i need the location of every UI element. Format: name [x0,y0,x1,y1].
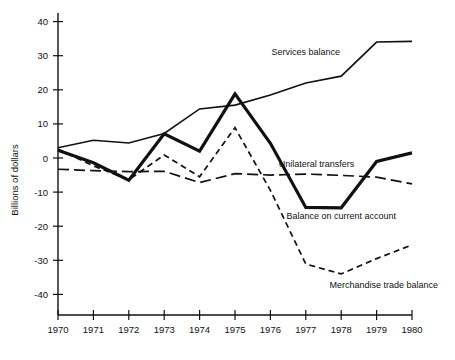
series-line-merchandise-trade-balance [58,128,412,274]
series-annotation-label: Unilateral transfers [279,159,355,169]
series-annotation-label: Balance on current account [286,211,396,221]
y-axis-title-group: Billions of dollars [9,144,20,216]
y-axis-tick-label: -10 [34,187,48,198]
x-axis-tick-label: 1978 [331,324,352,335]
y-axis-title: Billions of dollars [9,144,20,216]
x-axis-tick-label: 1980 [401,324,422,335]
series-annotation-label: Services balance [272,47,341,57]
y-axis-tick-label: -30 [34,255,48,266]
y-axis-tick-label: 10 [37,118,48,129]
y-axis-tick-label: -20 [34,221,48,232]
series-annotations: Services balanceUnilateral transfersBala… [272,47,438,290]
y-axis-tick-label: 0 [43,153,48,164]
series-lines [58,41,412,274]
y-axis-tick-label: 20 [37,84,48,95]
chart-container: Billions of dollars 403020100-10-20-30-4… [0,0,455,360]
x-axis: 1970197119721973197419751976197719781979… [47,310,422,335]
line-chart: Billions of dollars 403020100-10-20-30-4… [0,0,455,360]
y-axis-tick-label: 30 [37,50,48,61]
x-axis-tick-label: 1975 [224,324,245,335]
x-axis-tick-label: 1972 [118,324,139,335]
x-axis-tick-label: 1970 [47,324,68,335]
x-axis-tick-label: 1979 [366,324,387,335]
x-axis-tick-label: 1976 [260,324,281,335]
series-annotation-label: Merchandise trade balance [329,280,438,290]
y-axis-tick-label: 40 [37,16,48,27]
x-axis-tick-label: 1977 [295,324,316,335]
series-line-balance-on-current-account [58,94,412,208]
y-axis-tick-label: -40 [34,289,48,300]
x-axis-tick-label: 1974 [189,324,210,335]
x-axis-tick-label: 1973 [154,324,175,335]
y-axis: 403020100-10-20-30-40 [34,13,63,315]
x-axis-tick-label: 1971 [83,324,104,335]
